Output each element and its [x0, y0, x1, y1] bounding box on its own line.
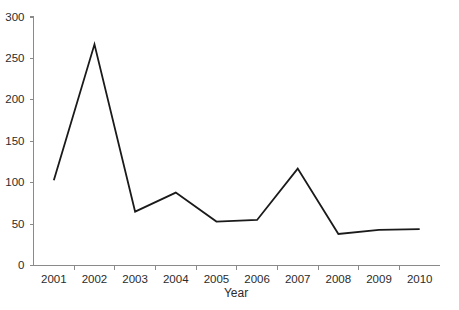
x-tick-label: 2005 — [204, 273, 230, 285]
y-tick-label: 150 — [5, 135, 24, 147]
y-tick-label: 100 — [5, 176, 24, 188]
y-tick-label: 50 — [12, 218, 25, 230]
x-tick-label: 2006 — [244, 273, 270, 285]
x-tick-label: 2001 — [41, 273, 67, 285]
x-axis: 2001200220032004200520062007200820092010 — [34, 266, 441, 285]
x-tick-label: 2010 — [407, 273, 433, 285]
x-tick-label: 2007 — [285, 273, 311, 285]
y-tick-label: 200 — [5, 93, 24, 105]
x-axis-title: Year — [224, 286, 248, 300]
y-axis-tick-labels: 050100150200250300 — [5, 11, 24, 272]
x-tick-label: 2002 — [82, 273, 108, 285]
x-tick-label: 2004 — [163, 273, 189, 285]
y-tick-label: 300 — [5, 11, 24, 23]
x-tick-label: 2009 — [366, 273, 392, 285]
x-axis-ticks — [74, 266, 399, 270]
y-tick-label: 250 — [5, 52, 24, 64]
x-axis-tick-labels: 2001200220032004200520062007200820092010 — [41, 273, 432, 285]
y-tick-label: 0 — [18, 259, 24, 271]
y-axis: 050100150200250300 — [5, 11, 33, 272]
line-chart-figure: 050100150200250300 200120022003200420052… — [0, 0, 459, 310]
x-tick-label: 2003 — [122, 273, 148, 285]
chart-canvas: 050100150200250300 200120022003200420052… — [0, 0, 459, 310]
y-axis-ticks — [30, 17, 34, 266]
x-tick-label: 2008 — [326, 273, 352, 285]
data-series-line — [54, 44, 420, 234]
